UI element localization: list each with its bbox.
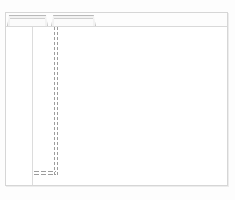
dashed-path-vertical-segment — [54, 27, 58, 175]
tab-strip — [6, 13, 227, 27]
sidebar-panel[interactable] — [6, 27, 32, 185]
dashed-path-horizontal-segment — [34, 171, 56, 175]
window-frame — [5, 12, 228, 186]
app-root — [0, 0, 235, 200]
canvas-area[interactable] — [33, 27, 227, 185]
window-body — [6, 27, 227, 185]
